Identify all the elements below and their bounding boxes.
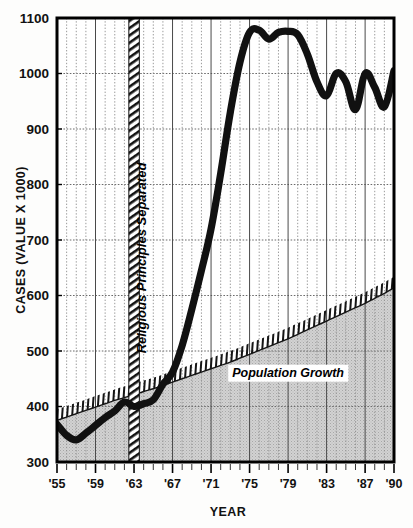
cases-population-line-chart: 11001000900800700600500400300 CASES (VAL… (0, 0, 413, 528)
chart-container: 11001000900800700600500400300 CASES (VAL… (0, 0, 413, 528)
population-growth-annotation-group: Population Growth (228, 365, 348, 382)
x-tick-label: '83 (318, 477, 335, 491)
y-tick-label: 800 (26, 177, 49, 192)
x-tick-label: '71 (203, 477, 220, 491)
y-tick-label: 900 (26, 122, 49, 137)
y-axis-title: CASES (VALUE X 1000) (14, 166, 28, 313)
event-annotation-group: Religious Principles Separated (134, 162, 149, 354)
y-tick-label: 700 (26, 233, 49, 248)
x-tick-label: '75 (241, 477, 258, 491)
y-tick-label: 1000 (19, 66, 49, 81)
population-growth-label: Population Growth (232, 366, 344, 380)
x-tick-label: '63 (126, 477, 143, 491)
y-tick-label: 300 (26, 455, 49, 470)
x-axis-title: YEAR (210, 505, 246, 519)
y-tick-label: 500 (26, 344, 49, 359)
plot-area (57, 18, 394, 462)
y-tick-label: 1100 (20, 11, 49, 26)
x-tick-label: '67 (164, 477, 181, 491)
x-tick-label: '90 (386, 477, 403, 491)
x-tick-label: '79 (280, 477, 297, 491)
y-tick-label: 600 (26, 288, 49, 303)
y-tick-label: 400 (26, 399, 49, 414)
x-tick-label: '87 (357, 477, 374, 491)
x-tick-label: '55 (49, 477, 66, 491)
religious-principles-separated-label: Religious Principles Separated (134, 162, 149, 354)
x-tick-label: '59 (87, 477, 104, 491)
